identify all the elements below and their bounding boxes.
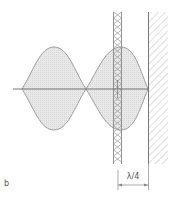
wave-envelope [22,47,148,130]
standing-wave-diagram: λ/4 b [0,0,175,198]
rigid-wall [149,12,169,164]
dimension-label: λ/4 [127,172,140,181]
left-lobe [22,47,86,130]
quarter-wavelength-dimension: λ/4 [118,164,149,190]
panel-label: b [4,179,9,188]
